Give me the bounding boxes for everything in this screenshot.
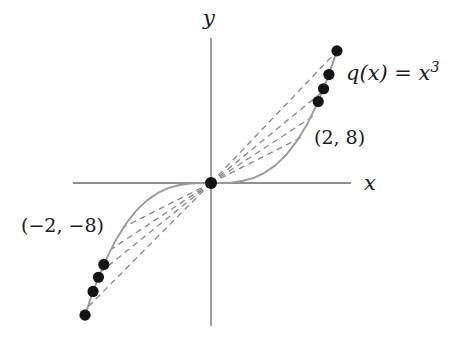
secant-line-positive-1 — [211, 51, 337, 183]
data-point — [331, 45, 342, 56]
x-axis-label: x — [364, 173, 376, 194]
cubic-function-secant-diagram: y x q(x) = x3 (2, 8) (−2, −8) — [0, 0, 460, 338]
data-point — [205, 177, 217, 189]
function-exponent: 3 — [430, 59, 439, 75]
secant-line-negative-3 — [97, 183, 211, 275]
data-point — [98, 259, 109, 270]
data-point — [87, 286, 98, 297]
data-point — [93, 272, 104, 283]
secant-line-negative-2 — [110, 183, 211, 250]
data-point — [313, 96, 324, 107]
function-equation-text: q(x) = x — [346, 61, 430, 85]
point-label-negative: (−2, −8) — [21, 216, 104, 235]
secant-line-negative-4 — [81, 183, 211, 314]
data-point — [323, 69, 334, 80]
data-point — [318, 83, 329, 94]
function-equation-label: q(x) = x3 — [346, 60, 440, 84]
y-axis-label: y — [203, 8, 215, 29]
secant-line-negative-1 — [124, 183, 211, 227]
point-label-positive: (2, 8) — [314, 128, 365, 147]
data-point — [79, 310, 90, 321]
plot-canvas — [0, 0, 460, 338]
